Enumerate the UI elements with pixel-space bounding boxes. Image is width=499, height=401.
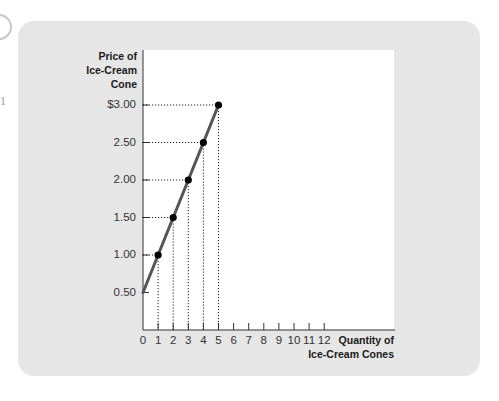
supply-chart xyxy=(0,0,499,401)
data-point-marker xyxy=(215,101,222,108)
data-point-marker xyxy=(185,176,192,183)
data-point-marker xyxy=(170,214,177,221)
data-point-marker xyxy=(155,251,162,258)
data-point-marker xyxy=(200,139,207,146)
supply-curve xyxy=(143,105,219,293)
